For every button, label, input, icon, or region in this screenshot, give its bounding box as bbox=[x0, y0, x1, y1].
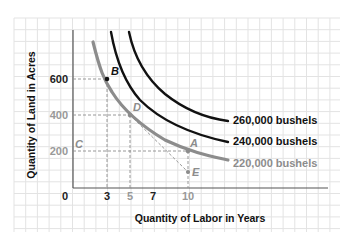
point-d bbox=[128, 113, 133, 118]
curve-label-240000: 240,000 bushels bbox=[233, 135, 317, 147]
isoquant-chart: B D A C E 600 400 200 0 3 5 7 10 260,000… bbox=[0, 0, 355, 251]
x-tick-7: 7 bbox=[150, 190, 156, 202]
isoquant-220000 bbox=[93, 42, 228, 160]
x-tick-3: 3 bbox=[104, 190, 110, 202]
curve-label-260000: 260,000 bushels bbox=[233, 114, 317, 126]
y-axis-title: Quantity of Land in Acres bbox=[25, 51, 37, 179]
point-b bbox=[105, 77, 110, 82]
x-tick-10: 10 bbox=[182, 190, 194, 202]
isoquant-240000 bbox=[111, 32, 228, 142]
point-label-c: C bbox=[75, 138, 84, 150]
point-a bbox=[186, 149, 191, 154]
x-tick-5: 5 bbox=[127, 190, 133, 202]
curve-label-220000: 220,000 bushels bbox=[233, 157, 317, 169]
point-label-d: D bbox=[133, 101, 141, 113]
x-axis-title: Quantity of Labor in Years bbox=[135, 212, 266, 224]
y-tick-200: 200 bbox=[50, 145, 68, 157]
point-label-b: B bbox=[111, 65, 119, 77]
point-label-e: E bbox=[192, 166, 200, 178]
y-tick-600: 600 bbox=[50, 73, 68, 85]
y-tick-400: 400 bbox=[50, 109, 68, 121]
point-e bbox=[186, 170, 190, 174]
x-tick-0: 0 bbox=[62, 190, 68, 202]
point-label-a: A bbox=[189, 137, 198, 149]
